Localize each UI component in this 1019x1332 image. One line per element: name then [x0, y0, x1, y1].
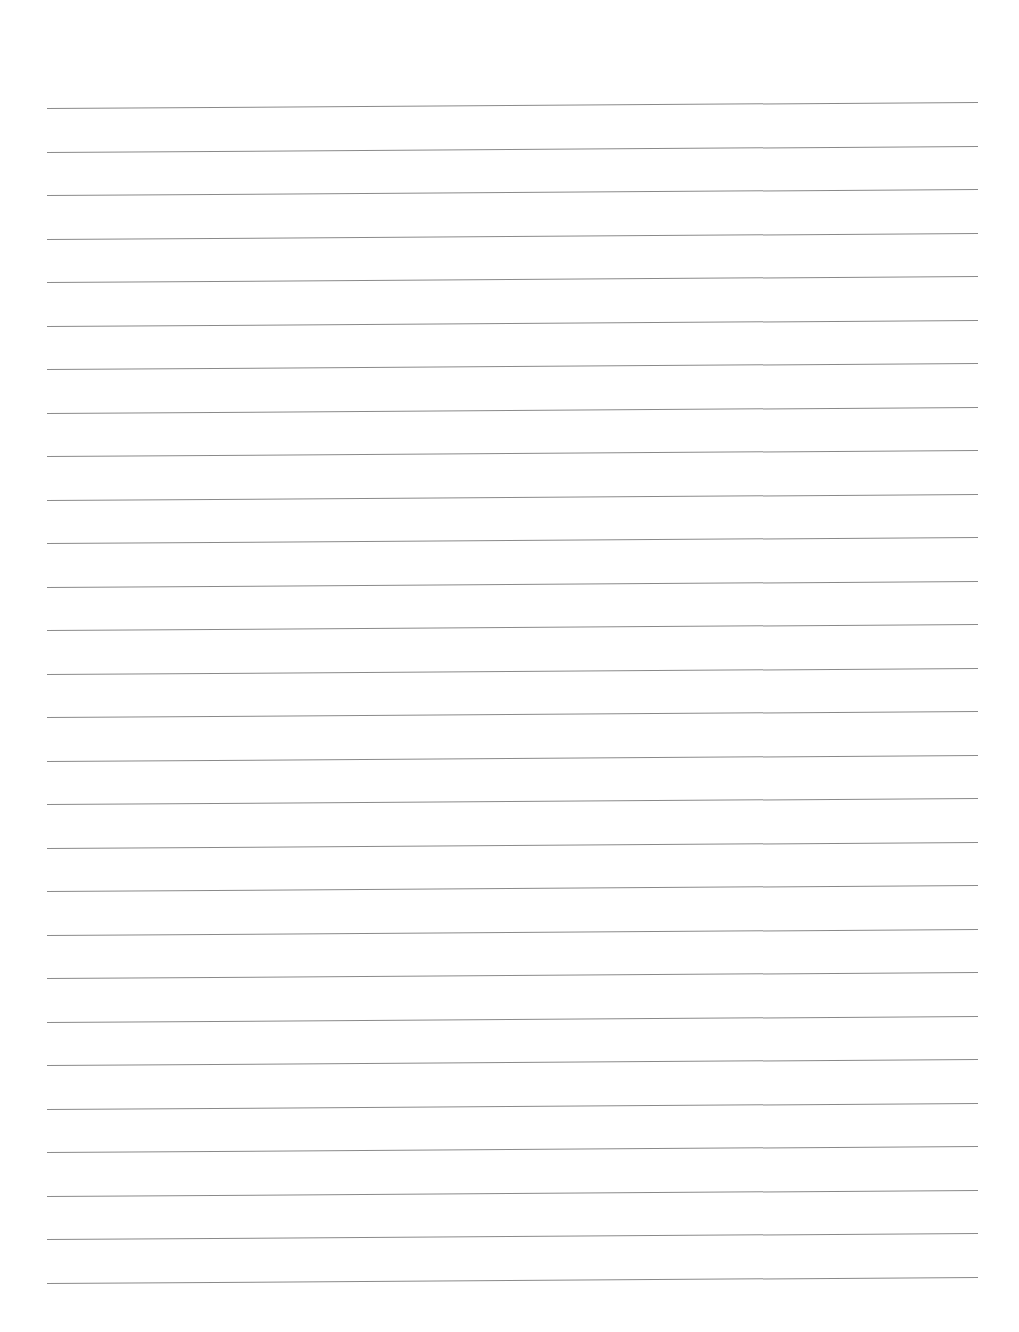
- ruled-line: [47, 1276, 978, 1283]
- ruled-line: [47, 1189, 978, 1196]
- ruled-line: [47, 145, 978, 152]
- ruled-line: [47, 841, 978, 848]
- ruled-line: [47, 1233, 978, 1240]
- ruled-line: [47, 580, 978, 587]
- ruled-line: [47, 667, 978, 674]
- ruled-line: [47, 363, 978, 370]
- ruled-line: [47, 885, 978, 892]
- ruled-line: [47, 711, 978, 718]
- ruled-line: [47, 1102, 978, 1109]
- ruled-line: [47, 537, 978, 544]
- ruled-line: [47, 232, 978, 239]
- ruled-line: [47, 798, 978, 805]
- ruled-line: [47, 189, 978, 196]
- ruled-line: [47, 1059, 978, 1066]
- ruled-line: [47, 450, 978, 457]
- ruled-line: [47, 276, 978, 283]
- ruled-line: [47, 319, 978, 326]
- ruled-line: [47, 624, 978, 631]
- ruled-line: [47, 928, 978, 935]
- ruled-line: [47, 972, 978, 979]
- ruled-line: [47, 406, 978, 413]
- ruled-line: [47, 102, 978, 109]
- ruled-line: [47, 1015, 978, 1022]
- lined-paper-page: [0, 0, 1019, 1332]
- ruled-line: [47, 493, 978, 500]
- ruled-line: [47, 754, 978, 761]
- ruled-line: [47, 1146, 978, 1153]
